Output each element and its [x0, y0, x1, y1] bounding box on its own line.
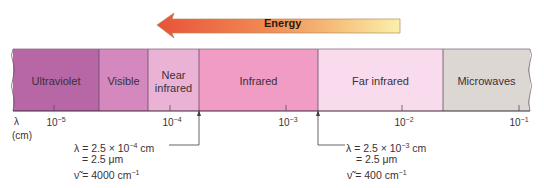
- region-label-ultraviolet: Ultraviolet: [13, 75, 99, 88]
- annotation-right-wavenumber: ν̃ = 400 cm−1: [347, 166, 407, 182]
- region-label-infrared: Infrared: [199, 75, 318, 88]
- tick-label-1e-1: 10−1: [509, 116, 528, 128]
- region-label-far-infrared: Far infrared: [318, 75, 443, 88]
- region-label-visible: Visible: [99, 75, 148, 88]
- region-label-microwaves: Microwaves: [443, 75, 530, 88]
- tick-label-1e-2: 10−2: [394, 116, 413, 128]
- tick-label-1e-3: 10−3: [278, 116, 297, 128]
- ir-spectrum-diagram: Energy Ultraviolet Visible Nearinfrared …: [0, 0, 544, 188]
- tick-label-1e-4: 10−4: [162, 116, 181, 128]
- axis-symbol: λ: [14, 116, 19, 128]
- region-label-near-infrared: Nearinfrared: [148, 69, 199, 95]
- annotation-left-wavenumber: ν̃ = 4000 cm−1: [74, 166, 139, 182]
- annotation-right-micrometers: = 2.5 μm: [356, 153, 397, 166]
- axis-unit: (cm): [12, 130, 32, 142]
- tick-label-1e-5: 10−5: [46, 116, 65, 128]
- annotation-left-micrometers: = 2.5 μm: [82, 153, 123, 166]
